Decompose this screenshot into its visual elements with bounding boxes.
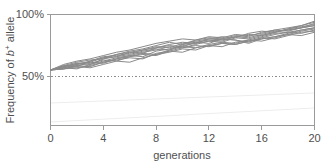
x-tick-label-4: 4 xyxy=(100,132,106,144)
x-tick-label-12: 12 xyxy=(203,132,215,144)
y-axis-title: Frequency of b+ allele xyxy=(3,17,17,124)
x-axis-title: generations xyxy=(153,149,211,161)
trajectory-lines xyxy=(51,21,315,70)
chart-figure: 100% 50% 0 4 8 12 16 20 generations Freq… xyxy=(0,0,330,163)
x-tick-label-20: 20 xyxy=(308,132,320,144)
allele-frequency-line-chart: 100% 50% 0 4 8 12 16 20 generations Freq… xyxy=(0,0,330,163)
y-axis-title-suffix: allele xyxy=(4,17,16,46)
y-axis-ticks xyxy=(47,15,51,77)
y-axis-title-prefix: Frequency of xyxy=(4,56,16,123)
y-tick-label-100: 100% xyxy=(16,8,44,20)
x-tick-label-0: 0 xyxy=(47,132,53,144)
x-axis-ticks xyxy=(51,126,315,131)
scan-artifact-lines xyxy=(50,93,314,122)
x-tick-label-8: 8 xyxy=(153,132,159,144)
y-tick-label-50: 50% xyxy=(22,70,44,82)
x-tick-label-16: 16 xyxy=(256,132,268,144)
